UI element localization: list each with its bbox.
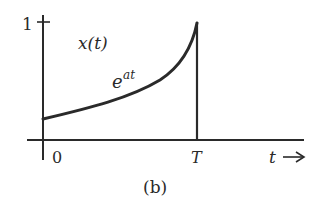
curve-label-base: e — [112, 71, 123, 92]
x-tick-label-0: 0 — [52, 148, 62, 167]
y-axis-label: x(t) — [78, 33, 108, 53]
y-tick-label-1: 1 — [22, 14, 33, 34]
right-arrow-icon — [283, 152, 304, 162]
signal-diagram: 1 x(t) e at 0 T t (b) — [0, 0, 314, 210]
x-tick-label-T: T — [191, 148, 203, 167]
curve-label-exponent: at — [123, 68, 135, 82]
figure-caption: (b) — [143, 177, 167, 197]
x-axis-label: t — [269, 147, 276, 167]
